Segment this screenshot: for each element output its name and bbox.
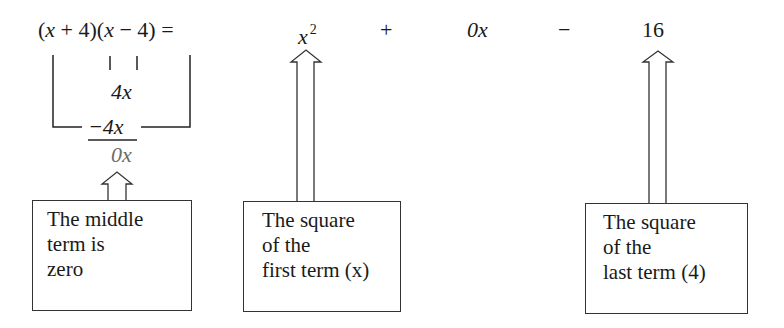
equation-lhs: (x + 4)(x − 4) =: [38, 18, 174, 42]
outer-bracket: [53, 55, 82, 127]
operator-minus: −: [558, 18, 570, 42]
term-middle: 0x: [467, 18, 488, 42]
product-inner: 4x: [111, 80, 132, 104]
arrow-up-icon: [643, 51, 673, 204]
arrow-up-icon: [102, 172, 132, 201]
product-outer: −4x: [88, 115, 124, 139]
term-square-first: x2: [298, 18, 317, 49]
arrow-up-icon: [291, 50, 321, 202]
operator-plus: +: [380, 18, 392, 42]
callout-last-term: The square of the last term (4): [585, 203, 748, 314]
callout-first-term: The square of the first term (x): [243, 201, 401, 312]
term-last: 16: [642, 18, 664, 42]
middle-sum: 0x: [111, 143, 132, 167]
callout-middle-term: The middle term is zero: [32, 200, 192, 311]
